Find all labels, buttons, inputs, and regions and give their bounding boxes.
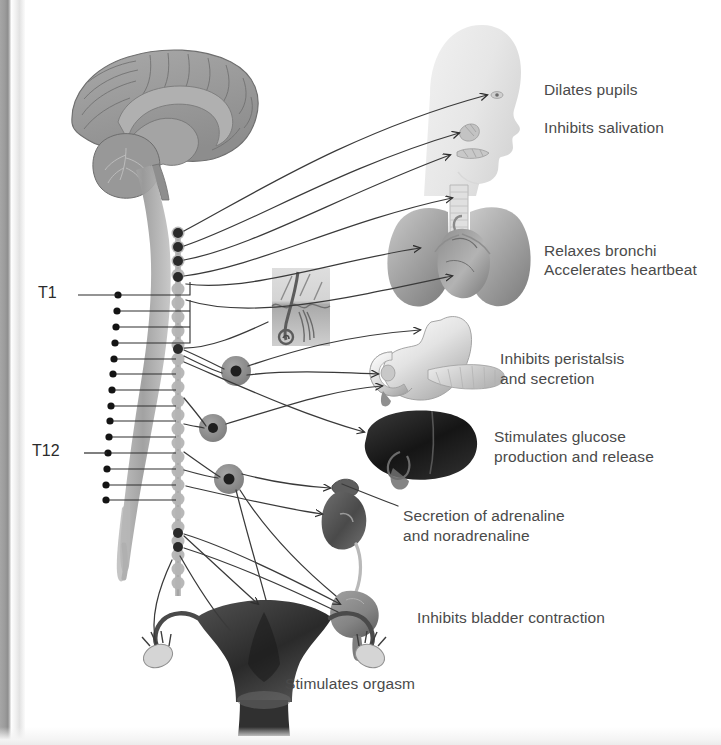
brain-sagittal — [72, 50, 258, 200]
label-dilates-pupils: Dilates pupils — [544, 80, 638, 100]
spinal-cord — [117, 165, 171, 581]
eye-structure — [491, 92, 503, 99]
label-inhibits-peristalsis: Inhibits peristalsis and secretion — [500, 349, 624, 389]
liver — [365, 411, 477, 490]
label-inhibits-salivation: Inhibits salivation — [544, 118, 664, 138]
label-inhibits-bladder: Inhibits bladder contraction — [417, 608, 605, 628]
stomach-duodenum-pancreas — [370, 317, 504, 407]
label-accelerates-heartbeat: Accelerates heartbeat — [544, 260, 697, 280]
label-secretion-adrenaline: Secretion of adrenaline and noradrenalin… — [403, 506, 565, 546]
label-relaxes-bronchi: Relaxes bronchi — [544, 241, 657, 261]
label-stimulates-orgasm: Stimulates orgasm — [285, 674, 415, 694]
head-silhouette — [424, 25, 521, 196]
kidney-and-adrenal-gland — [322, 479, 367, 592]
sympathetic-chain — [172, 227, 185, 597]
prevertebral-ganglia — [199, 356, 251, 494]
segment-label-t1: T1 — [38, 284, 57, 302]
diagram-canvas: T1 T12 Dilates pupils Inhibits salivatio… — [0, 0, 721, 745]
page-bottom-fade — [0, 727, 721, 745]
lungs-and-heart — [387, 185, 530, 307]
segment-label-t12: T12 — [32, 442, 60, 460]
label-stimulates-glucose: Stimulates glucose production and releas… — [494, 427, 654, 467]
